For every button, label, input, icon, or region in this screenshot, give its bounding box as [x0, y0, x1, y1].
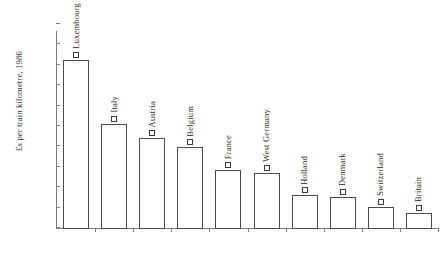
open-square-marker-icon [302, 187, 308, 193]
bar-group[interactable]: Italy [95, 24, 133, 229]
open-square-marker-icon [416, 205, 422, 211]
bar[interactable] [292, 195, 318, 229]
bar-category-label: Denmark [338, 153, 347, 186]
bar-group[interactable]: Belgium [171, 24, 209, 229]
bar[interactable] [101, 124, 127, 229]
bar-group[interactable]: France [209, 24, 247, 229]
bar-label-group: France [221, 135, 235, 168]
bar[interactable] [406, 213, 432, 229]
bar-group[interactable]: Britain [400, 24, 438, 229]
bar-group[interactable]: Holland [286, 24, 324, 229]
bar-label-group: Italy [107, 96, 121, 122]
bar-chart: 20181614121086420 £s per train kilometre… [0, 0, 444, 259]
bar[interactable] [254, 173, 280, 229]
open-square-marker-icon [340, 189, 346, 195]
open-square-marker-icon [378, 199, 384, 205]
bar-category-label: Italy [110, 96, 119, 113]
x-tick [324, 228, 325, 232]
bar-category-label: West Germany [262, 109, 271, 162]
x-tick [171, 228, 172, 232]
bar-group[interactable]: Luxembourg [57, 24, 95, 229]
y-axis-title: £s per train kilometre, 1986 [14, 31, 24, 171]
bar-label-group: Denmark [336, 153, 350, 195]
bar-group[interactable]: Austria [133, 24, 171, 229]
bar[interactable] [215, 170, 241, 229]
open-square-marker-icon [264, 165, 270, 171]
bar-label-group: Switzerland [374, 153, 388, 205]
open-square-marker-icon [111, 116, 117, 122]
bar-label-group: Austria [145, 101, 159, 136]
bar-label-group: Belgium [183, 106, 197, 146]
bar-category-label: Holland [300, 156, 309, 185]
bars-layer: LuxembourgItalyAustriaBelgiumFranceWest … [57, 24, 438, 229]
bar-category-label: Luxembourg [72, 3, 81, 49]
x-tick [400, 228, 401, 232]
x-tick [248, 228, 249, 232]
bar-category-label: Belgium [186, 106, 195, 137]
x-tick [133, 228, 134, 232]
bar-category-label: Switzerland [376, 153, 385, 196]
bar[interactable] [177, 147, 203, 229]
bar[interactable] [330, 197, 356, 229]
bar-category-label: Britain [414, 177, 423, 202]
x-tick [95, 228, 96, 232]
bar-group[interactable]: West Germany [248, 24, 286, 229]
open-square-marker-icon [225, 162, 231, 168]
bar-label-group: Britain [412, 177, 426, 211]
bar-group[interactable]: Switzerland [362, 24, 400, 229]
bar-label-group: Luxembourg [69, 3, 83, 58]
bar-group[interactable]: Denmark [324, 24, 362, 229]
x-tick [286, 228, 287, 232]
bar-label-group: West Germany [260, 109, 274, 171]
open-square-marker-icon [149, 130, 155, 136]
open-square-marker-icon [73, 52, 79, 58]
bar-label-group: Holland [298, 156, 312, 194]
x-tick [209, 228, 210, 232]
bar[interactable] [368, 207, 394, 229]
open-square-marker-icon [187, 139, 193, 145]
bar[interactable] [139, 138, 165, 229]
bar-category-label: Austria [148, 101, 157, 127]
x-tick [438, 228, 439, 232]
x-tick [362, 228, 363, 232]
bar-category-label: France [224, 135, 233, 159]
bar[interactable] [63, 60, 89, 229]
